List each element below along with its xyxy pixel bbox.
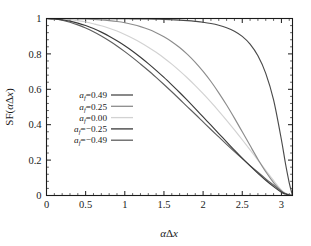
x-tick-label: 0.5 — [79, 199, 92, 210]
x-tick-label: 0 — [44, 199, 49, 210]
y-tick-label: 0.6 — [28, 84, 41, 95]
legend-label: af=0.25 — [79, 102, 107, 113]
y-tick-label: 0.8 — [28, 49, 41, 60]
y-tick-label: 1 — [36, 13, 41, 24]
legend-label: af=0.00 — [79, 113, 107, 124]
line-chart: 00.511.522.53 00.20.40.60.81 af=0.49af=0… — [0, 0, 311, 246]
y-tick-label: 0.4 — [28, 119, 42, 130]
x-tick-label: 1 — [122, 199, 127, 210]
figure-container: 00.511.522.53 00.20.40.60.81 af=0.49af=0… — [0, 0, 311, 246]
y-axis-label: SF(αΔx) — [3, 88, 16, 126]
legend-label: af=0.49 — [79, 90, 107, 101]
x-tick-label: 2.5 — [236, 199, 249, 210]
x-tick-label: 1.5 — [157, 199, 170, 210]
x-tick-label: 3 — [279, 199, 284, 210]
x-tick-label: 2 — [200, 199, 205, 210]
x-axis-label: αΔx — [160, 227, 178, 239]
y-tick-label: 0.2 — [28, 155, 41, 166]
x-axis-tick-labels: 00.511.522.53 — [44, 199, 284, 210]
y-tick-label: 0 — [36, 190, 41, 201]
